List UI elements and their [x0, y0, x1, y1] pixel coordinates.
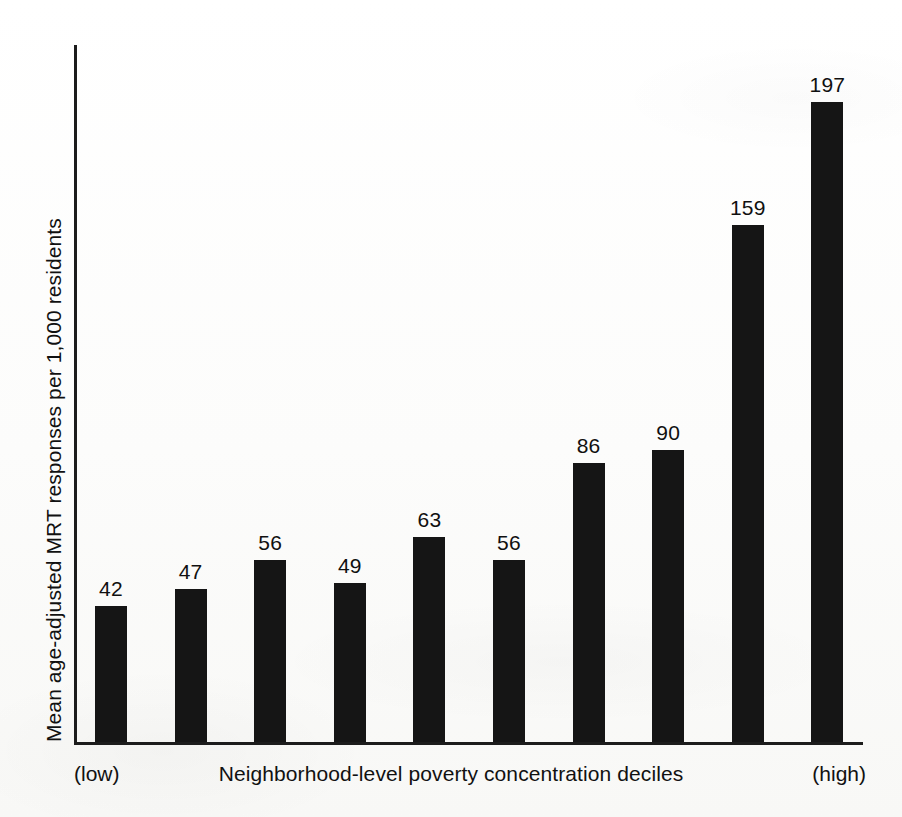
bar-value-label-2: 47 [151, 561, 231, 582]
x-axis-endpoint-low: (low) [74, 762, 120, 786]
bar-value-label-6: 56 [469, 532, 549, 553]
bar-4 [334, 583, 366, 742]
bar-value-label-7: 86 [549, 435, 629, 456]
x-axis-endpoint-high: (high) [812, 762, 866, 786]
bar-value-label-10: 197 [787, 74, 867, 95]
x-axis-line [74, 742, 863, 745]
y-axis-line [74, 45, 77, 745]
bar-value-label-3: 56 [230, 532, 310, 553]
bar-value-label-9: 159 [708, 197, 788, 218]
bar-2 [175, 589, 207, 742]
bar-value-label-4: 49 [310, 555, 390, 576]
x-axis-title: Neighborhood-level poverty concentration… [0, 762, 902, 786]
bar-9 [732, 225, 764, 742]
bar-1 [95, 606, 127, 742]
bar-3 [254, 560, 286, 742]
plot-area: 4247564963568690159197 Mean age-adjusted… [0, 0, 902, 817]
bar-6 [493, 560, 525, 742]
figure-canvas: 4247564963568690159197 Mean age-adjusted… [0, 0, 902, 817]
bar-7 [573, 463, 605, 742]
bar-value-label-5: 63 [389, 509, 469, 530]
bar-10 [811, 102, 843, 742]
y-axis-title: Mean age-adjusted MRT responses per 1,00… [42, 42, 66, 742]
bar-8 [652, 450, 684, 742]
bar-5 [413, 537, 445, 742]
bar-value-label-8: 90 [628, 422, 708, 443]
bar-value-label-1: 42 [71, 578, 151, 599]
